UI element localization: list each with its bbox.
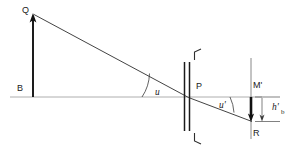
object-arrow bbox=[30, 13, 37, 97]
label-angle-object: u bbox=[155, 87, 160, 97]
angle-u-marker bbox=[142, 74, 150, 98]
label-image-plane-top: M' bbox=[253, 80, 262, 90]
angle-u-prime-marker bbox=[230, 97, 234, 113]
incident-ray bbox=[34, 15, 189, 98]
lens-mount-top bbox=[195, 49, 202, 60]
label-image-height-subscript: b bbox=[281, 108, 285, 116]
label-image-height: h' b bbox=[272, 102, 285, 116]
label-angle-image: u' bbox=[219, 100, 227, 110]
label-object-base: B bbox=[17, 83, 23, 93]
lens-mount-bottom bbox=[195, 133, 202, 144]
label-image-point: R bbox=[253, 128, 260, 138]
arc-icon bbox=[230, 97, 234, 113]
optical-ray-diagram: Q B P M' R u u' h' b bbox=[0, 0, 293, 150]
arc-icon bbox=[142, 74, 150, 98]
label-object-top: Q bbox=[22, 5, 29, 15]
label-image-height-main: h' bbox=[272, 102, 280, 112]
label-lens-vertex: P bbox=[196, 81, 202, 91]
image-arrow bbox=[248, 97, 254, 122]
diagram-canvas: Q B P M' R u u' h' b bbox=[0, 0, 293, 150]
